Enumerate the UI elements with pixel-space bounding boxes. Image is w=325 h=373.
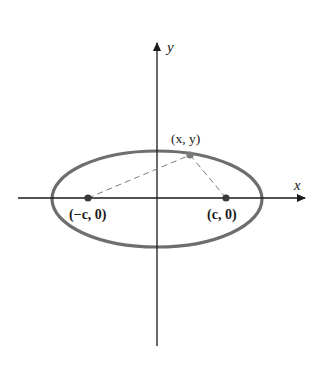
left-focus-dot <box>84 194 91 201</box>
ellipse-diagram: y x (x, y) (−c, 0) (c, 0) <box>0 0 325 373</box>
right-focus-label: (c, 0) <box>207 207 237 223</box>
dashed-line-left-focus <box>88 155 190 198</box>
x-axis-label: x <box>293 177 301 193</box>
y-axis-label: y <box>165 39 174 55</box>
right-focus-dot <box>222 194 229 201</box>
point-on-ellipse-label: (x, y) <box>171 131 200 146</box>
left-focus-label: (−c, 0) <box>69 207 107 223</box>
point-on-ellipse-dot <box>186 151 193 158</box>
